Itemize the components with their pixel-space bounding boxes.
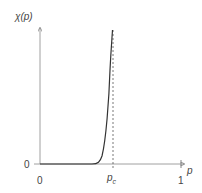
y-zero-label: 0	[24, 160, 30, 170]
pc-label: pc	[107, 173, 116, 187]
x-one-label: 1	[178, 176, 184, 186]
x-axis-label: p	[187, 166, 193, 176]
x-zero-label: 0	[37, 176, 43, 186]
y-axis-label: χ(p)	[15, 12, 33, 22]
susceptibility-curve	[40, 30, 113, 164]
chart-canvas	[0, 0, 202, 193]
pc-sub: c	[113, 178, 117, 185]
